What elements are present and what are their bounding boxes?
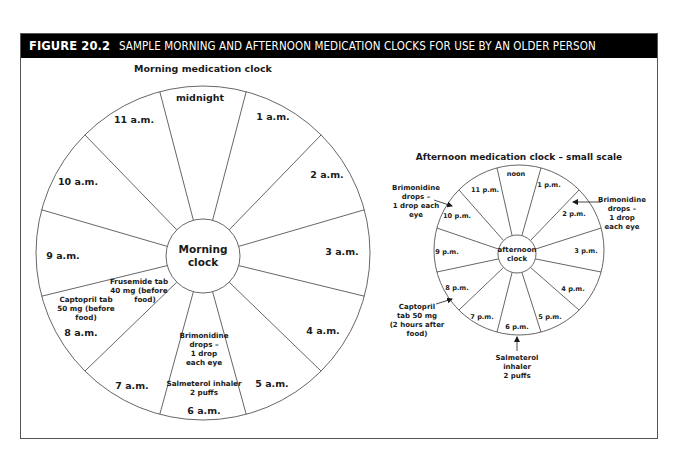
segment-label-noon: noon — [507, 170, 526, 178]
morning-clock-center-label-1: Morning — [179, 243, 228, 255]
svg-text:drops –: drops – — [189, 340, 219, 349]
segment-label-midnight: midnight — [176, 92, 225, 103]
svg-text:tab 50 mg: tab 50 mg — [397, 312, 437, 320]
segment-label-11pm: 11 p.m. — [471, 186, 499, 194]
svg-text:each eye: each eye — [186, 358, 222, 367]
clocks-diagram: Morning medication clock Morning clock m… — [0, 0, 687, 465]
afternoon-clock: Afternoon medication clock – small scale… — [390, 152, 646, 380]
svg-text:each eye: each eye — [604, 223, 639, 231]
svg-text:2 puffs: 2 puffs — [503, 372, 530, 380]
svg-text:food): food) — [134, 295, 155, 304]
segment-label-2pm: 2 p.m. — [562, 210, 585, 218]
svg-text:(2 hours after: (2 hours after — [390, 321, 445, 329]
segment-label-9pm: 9 p.m. — [435, 248, 458, 256]
segment-label-4am: 4 a.m. — [306, 325, 339, 336]
segment-label-2am: 2 a.m. — [310, 169, 343, 180]
morning-clock-title: Morning medication clock — [134, 63, 272, 74]
svg-text:Brimonidine: Brimonidine — [392, 184, 440, 192]
svg-text:Captopril tab: Captopril tab — [59, 295, 112, 304]
svg-text:Captopril: Captopril — [399, 303, 435, 311]
callout-captopril: Captopril tab 50 mg (2 hours after food) — [390, 299, 452, 338]
svg-text:1 drop: 1 drop — [191, 349, 217, 358]
svg-text:Brimonidine: Brimonidine — [179, 331, 228, 340]
svg-text:food): food) — [407, 330, 428, 338]
segment-label-6am: 6 a.m. — [187, 405, 220, 416]
afternoon-clock-center-label-2: clock — [507, 255, 528, 263]
segment-label-8am: 8 a.m. — [64, 327, 97, 338]
svg-text:50 mg (before: 50 mg (before — [57, 304, 115, 313]
svg-text:eye: eye — [409, 211, 423, 219]
segment-label-5am: 5 a.m. — [255, 378, 288, 389]
svg-text:Brimonidine: Brimonidine — [598, 196, 646, 204]
segment-label-1am: 1 a.m. — [256, 111, 289, 122]
afternoon-clock-title: Afternoon medication clock – small scale — [416, 152, 622, 162]
svg-text:drops –: drops – — [608, 205, 637, 213]
segment-label-5pm: 5 p.m. — [538, 313, 561, 321]
segment-label-8pm: 8 p.m. — [445, 284, 468, 292]
segment-label-3am: 3 a.m. — [325, 246, 358, 257]
svg-text:inhaler: inhaler — [503, 363, 531, 371]
svg-text:Salmeterol: Salmeterol — [496, 354, 539, 362]
segment-label-10pm: 10 p.m. — [443, 212, 471, 220]
svg-text:food): food) — [75, 313, 96, 322]
afternoon-clock-center — [498, 235, 536, 273]
segment-label-10am: 10 a.m. — [58, 176, 98, 187]
segment-label-11am: 11 a.m. — [114, 114, 154, 125]
svg-text:1 drop each: 1 drop each — [393, 202, 440, 210]
callout-salmeterol: Salmeterol inhaler 2 puffs — [496, 337, 539, 380]
segment-label-3pm: 3 p.m. — [574, 247, 597, 255]
afternoon-clock-center-label-1: afternoon — [498, 246, 537, 254]
segment-label-7pm: 7 p.m. — [470, 313, 493, 321]
segment-label-9am: 9 a.m. — [46, 250, 79, 261]
svg-text:2 puffs: 2 puffs — [190, 388, 218, 397]
morning-clock: Morning medication clock Morning clock m… — [36, 63, 370, 420]
segment-label-6pm: 6 p.m. — [505, 323, 528, 331]
svg-text:Salmeterol inhaler: Salmeterol inhaler — [166, 379, 241, 388]
svg-text:1 drop: 1 drop — [609, 214, 635, 222]
svg-text:drops –: drops – — [402, 193, 431, 201]
arrow-icon — [436, 299, 452, 304]
segment-label-7am: 7 a.m. — [115, 380, 148, 391]
svg-text:Frusemide tab: Frusemide tab — [110, 277, 168, 286]
segment-label-4pm: 4 p.m. — [561, 285, 584, 293]
svg-text:40 mg (before: 40 mg (before — [110, 286, 168, 295]
segment-label-1pm: 1 p.m. — [537, 181, 560, 189]
morning-clock-center-label-2: clock — [188, 256, 219, 268]
